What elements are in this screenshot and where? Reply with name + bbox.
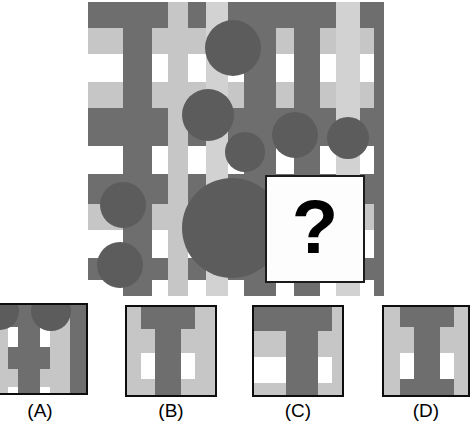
option-pattern bbox=[127, 307, 215, 395]
option-swatch-c[interactable] bbox=[252, 305, 344, 397]
vertical-stripe bbox=[168, 2, 188, 296]
puzzle-stage: ? (A)(B)(C)(D) bbox=[0, 0, 472, 432]
pattern-circle bbox=[182, 89, 234, 141]
option-vertical-stripe bbox=[127, 307, 141, 395]
option-vertical-stripe bbox=[195, 307, 217, 395]
pattern-circle bbox=[205, 20, 261, 76]
option-swatch-a[interactable] bbox=[0, 303, 88, 395]
pattern-circle bbox=[100, 182, 146, 228]
pattern-circle bbox=[97, 242, 143, 288]
question-mark-glyph: ? bbox=[292, 189, 338, 265]
main-pattern-panel: ? bbox=[88, 2, 384, 296]
option-label-b: (B) bbox=[125, 400, 217, 422]
option-vertical-stripe bbox=[384, 307, 400, 395]
vertical-stripe bbox=[374, 2, 384, 296]
option-pattern bbox=[254, 307, 342, 395]
option-vertical-stripe bbox=[155, 307, 181, 395]
pattern-circle bbox=[272, 112, 318, 158]
option-vertical-stripe bbox=[70, 305, 88, 393]
option-pattern bbox=[0, 305, 86, 393]
option-label-a: (A) bbox=[0, 400, 88, 422]
pattern-circle bbox=[327, 117, 369, 159]
option-vertical-stripe bbox=[332, 307, 344, 395]
option-swatch-d[interactable] bbox=[382, 305, 470, 397]
pattern-circle bbox=[225, 132, 265, 172]
option-vertical-stripe bbox=[414, 307, 440, 395]
option-label-d: (D) bbox=[382, 400, 470, 422]
option-pattern bbox=[384, 307, 468, 395]
option-swatch-b[interactable] bbox=[125, 305, 217, 397]
option-label-c: (C) bbox=[252, 400, 344, 422]
question-mark-box: ? bbox=[265, 175, 365, 283]
option-vertical-stripe bbox=[286, 307, 318, 395]
option-vertical-stripe bbox=[454, 307, 470, 395]
